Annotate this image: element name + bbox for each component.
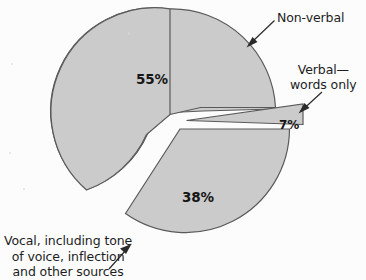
slice-label-verbal-line2: words only xyxy=(290,77,357,92)
slice-label-vocal-line2: of voice, inflection xyxy=(12,249,125,264)
scan-artifact xyxy=(128,32,130,35)
slice-label-vocal-line1: Vocal, including tone xyxy=(4,233,132,248)
slice-label-vocal: Vocal, including toneof voice, inflectio… xyxy=(4,233,132,280)
scan-artifact xyxy=(9,152,11,154)
scan-artifact xyxy=(23,188,25,190)
non-verbal-arrow-icon xyxy=(247,21,275,48)
slice-value-verbal: 7% xyxy=(279,118,299,132)
pie-chart-figure: Non-verbal Verbal—words only Vocal, incl… xyxy=(0,0,366,280)
verbal-arrow-icon xyxy=(299,92,323,114)
slice-label-verbal: Verbal—words only xyxy=(290,62,357,92)
pie-slice-vocal xyxy=(126,129,290,233)
slice-label-verbal-line1: Verbal— xyxy=(298,62,349,77)
slice-label-non-verbal: Non-verbal xyxy=(277,11,344,26)
slice-label-vocal-line3: and other sources xyxy=(13,264,124,279)
slice-value-non-verbal: 55% xyxy=(136,71,168,87)
scan-artifact xyxy=(11,63,13,65)
slice-value-vocal: 38% xyxy=(182,189,214,205)
